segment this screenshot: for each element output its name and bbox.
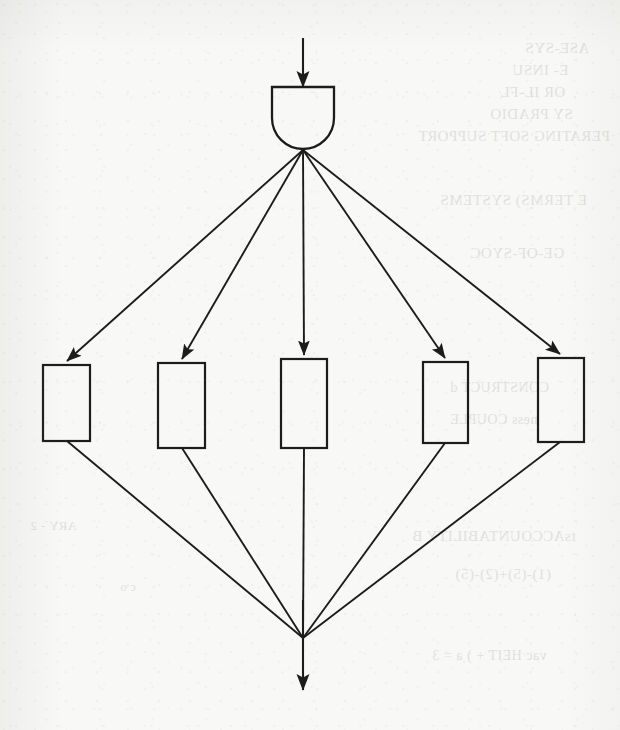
fanout-edges	[67, 150, 560, 361]
block-3	[281, 359, 327, 448]
fanout-edge-1	[67, 150, 303, 361]
fanin-edge-2	[182, 448, 303, 638]
and-gate	[272, 87, 334, 149]
block-2	[158, 363, 205, 448]
fanout-edge-4	[303, 150, 445, 358]
block-1	[43, 365, 90, 441]
fanin-edge-5	[303, 442, 560, 638]
block-diagram	[0, 0, 620, 730]
fanout-edge-3	[303, 150, 304, 355]
fanout-edge-5	[303, 150, 560, 354]
block-4	[423, 362, 468, 443]
fanout-edge-2	[182, 150, 303, 359]
fanin-edges	[67, 441, 560, 638]
fanin-edge-4	[303, 443, 445, 638]
fanin-edge-1	[67, 441, 303, 638]
block-5	[538, 358, 584, 442]
parallel-blocks	[43, 358, 584, 448]
scanned-page: ASE-SYS E- INSU OR IL-FL SY PRADIO PERAT…	[0, 0, 620, 730]
